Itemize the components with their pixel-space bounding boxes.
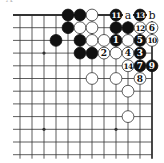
stone-circle (86, 9, 98, 21)
star-point (42, 128, 45, 131)
stone-circle (86, 35, 98, 47)
black-stone: 7 (134, 60, 146, 72)
move-number: 12 (136, 24, 145, 33)
stone-circle (50, 35, 62, 47)
stone-circle (62, 9, 74, 21)
move-number: 3 (137, 48, 143, 58)
white-stone (86, 73, 98, 85)
move-number: 13 (136, 11, 145, 20)
move-number: 5 (137, 35, 143, 45)
white-stone: 10 (146, 35, 158, 47)
black-stone: 5 (134, 35, 146, 47)
stone-circle (74, 47, 86, 59)
stone-circle (122, 35, 134, 47)
stone-circle (74, 35, 86, 47)
star-point (42, 52, 45, 55)
stone-circle (86, 73, 98, 85)
stone-circle (110, 22, 122, 34)
white-stone: 4 (122, 47, 134, 59)
move-number: 14 (124, 62, 133, 71)
stone-circle (62, 22, 74, 34)
white-stone: 2 (98, 47, 110, 59)
white-stone (110, 73, 122, 85)
stone-circle (122, 111, 134, 123)
move-number: 11 (112, 11, 121, 20)
move-number: 9 (149, 61, 155, 71)
black-stone: 1 (110, 35, 122, 47)
move-number: 8 (137, 74, 143, 84)
white-stone (122, 35, 134, 47)
stone-circle (86, 47, 98, 59)
move-number: 1 (113, 35, 119, 45)
stone-circle (74, 9, 86, 21)
black-stone (74, 35, 86, 47)
black-stone: 13 (134, 9, 146, 21)
stone-circle (98, 35, 110, 47)
white-stone: 8 (134, 73, 146, 85)
move-number: 4 (125, 48, 131, 58)
black-stone (110, 22, 122, 34)
point-mark-b: b (148, 9, 155, 22)
white-stone (122, 85, 134, 97)
black-stone (74, 47, 86, 59)
move-number: 6 (149, 23, 155, 33)
stone-circle (110, 73, 122, 85)
white-stone (110, 47, 122, 59)
go-board: 1113126151024314798 ab (0, 0, 164, 163)
star-point (114, 128, 117, 131)
black-stone (50, 35, 62, 47)
stone-circle (122, 22, 134, 34)
black-stone: 11 (110, 9, 122, 21)
white-stone: 12 (134, 22, 146, 34)
white-stone (74, 22, 86, 34)
white-stone (86, 9, 98, 21)
move-number: 7 (137, 61, 143, 71)
white-stone (122, 111, 134, 123)
black-stone: 9 (146, 60, 158, 72)
white-stone (86, 22, 98, 34)
white-stone (86, 35, 98, 47)
point-mark-a: a (125, 9, 132, 22)
black-stone: 3 (134, 47, 146, 59)
move-number: 2 (101, 48, 107, 58)
move-number: 10 (148, 36, 157, 45)
black-stone (74, 9, 86, 21)
black-stone (62, 22, 74, 34)
stone-circle (86, 22, 98, 34)
black-stone (86, 47, 98, 59)
white-stone: 6 (146, 22, 158, 34)
white-stone (98, 35, 110, 47)
stone-circle (74, 22, 86, 34)
white-stone: 14 (122, 60, 134, 72)
black-stone (62, 9, 74, 21)
stone-circle (110, 47, 122, 59)
black-stone (122, 22, 134, 34)
stone-circle (122, 85, 134, 97)
